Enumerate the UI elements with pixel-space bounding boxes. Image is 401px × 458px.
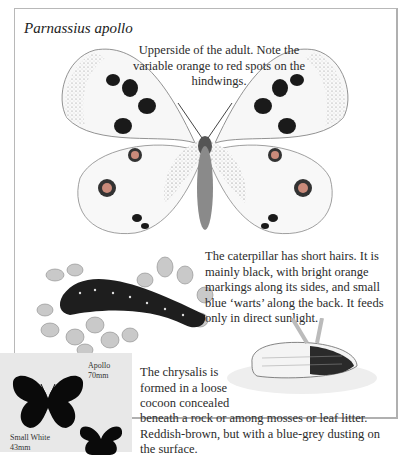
chrysalis-caption-part1: The chrysalis is formed in a loose cocoo… — [140, 365, 250, 412]
adult-caption: Upperside of the adult. Note the variabl… — [124, 43, 314, 90]
small-white-silhouette-icon — [78, 423, 124, 455]
caterpillar-illustration — [35, 255, 220, 360]
small-white-size-label: 43mm — [10, 443, 30, 453]
apollo-name-label: Apollo — [88, 361, 110, 371]
apollo-size-label: 70mm — [88, 371, 108, 381]
chrysalis-caption-part2: beneath a rock or among mosses or leaf l… — [140, 411, 395, 458]
small-white-name-label: Small White — [10, 433, 50, 443]
species-title: Parnassius apollo — [24, 20, 133, 37]
size-comparison-inset: Apollo 70mm Small White 43mm — [0, 353, 132, 452]
caterpillar-caption: The caterpillar has short hairs. It is m… — [205, 249, 395, 327]
apollo-silhouette-icon — [10, 370, 86, 430]
